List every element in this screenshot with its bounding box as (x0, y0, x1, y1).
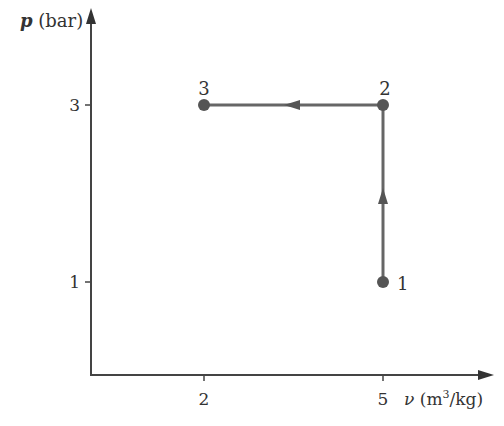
state-point-1 (377, 276, 389, 288)
state-point-3 (198, 99, 210, 111)
y-axis-label: p (bar) (20, 10, 83, 31)
arrow-left-icon (284, 100, 300, 110)
arrow-up-icon (378, 188, 388, 204)
y-tick-label-1: 1 (69, 272, 80, 292)
y-tick-label-3: 3 (69, 95, 80, 115)
state-label-2: 2 (379, 78, 390, 99)
state-label-3: 3 (198, 78, 209, 99)
state-label-1: 1 (397, 273, 408, 294)
y-axis-arrow-icon (86, 8, 96, 24)
x-tick-label-2: 2 (199, 389, 210, 409)
state-point-2 (377, 99, 389, 111)
x-tick-label-5: 5 (378, 389, 389, 409)
x-axis-label: ν (m3/kg) (404, 388, 483, 409)
x-axis-arrow-icon (478, 370, 494, 380)
pv-diagram: p (bar) 3 1 2 5 ν (m3/kg) 1 2 3 (0, 0, 504, 426)
